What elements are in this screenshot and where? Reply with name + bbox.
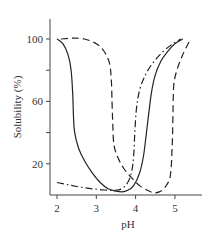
curve-solid (57, 39, 183, 192)
x-tick-label: 4 (133, 202, 139, 214)
x-ticks: 2345 (54, 195, 178, 214)
curves (57, 38, 191, 193)
y-tick-label: 20 (32, 158, 44, 170)
x-tick-label: 5 (172, 202, 178, 214)
curve-dashed (61, 38, 191, 193)
solubility-ph-chart: 2060100 Solubility (%) 2345 pH (0, 0, 211, 242)
y-ticks: 2060100 (27, 33, 51, 170)
y-axis-label: Solubility (%) (11, 75, 24, 138)
y-tick-label: 60 (32, 95, 44, 107)
x-axis-label: pH (121, 218, 135, 230)
x-tick-label: 3 (94, 202, 100, 214)
y-axis: 2060100 Solubility (%) (11, 19, 50, 195)
y-tick-label: 100 (27, 33, 44, 45)
x-tick-label: 2 (54, 202, 60, 214)
x-axis: 2345 pH (50, 195, 202, 230)
curve-dash-dot (57, 39, 181, 190)
